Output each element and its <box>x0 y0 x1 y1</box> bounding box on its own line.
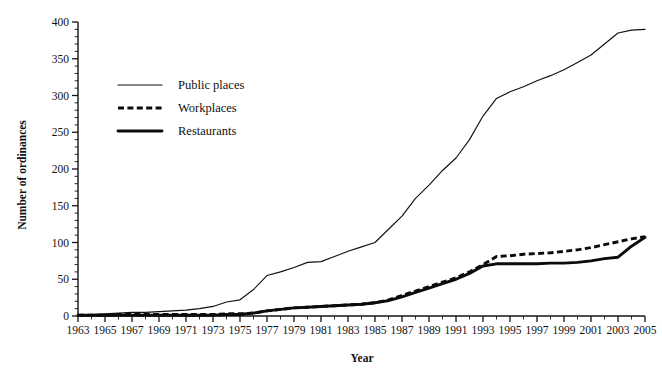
y-tick-label: 300 <box>52 90 70 102</box>
x-tick-label: 1983 <box>337 324 360 336</box>
y-tick-label: 0 <box>63 310 69 322</box>
x-tick-label: 1993 <box>472 324 495 336</box>
x-tick-label: 1967 <box>121 324 144 336</box>
y-axis-title: Number of ordinances <box>16 120 28 230</box>
x-tick-label: 2003 <box>607 324 630 336</box>
x-tick-label: 1981 <box>310 324 333 336</box>
x-tick-label: 1995 <box>499 324 522 336</box>
x-tick-label: 1989 <box>418 324 441 336</box>
x-tick-label: 1977 <box>256 324 279 336</box>
line-chart: 050100150200250300350400 196319651967196… <box>0 0 662 376</box>
x-tick-label: 1975 <box>229 324 252 336</box>
chart-legend: Public placesWorkplacesRestaurants <box>118 78 244 138</box>
x-tick-label: 1997 <box>526 324 549 336</box>
y-tick-label: 200 <box>52 163 70 175</box>
series-lines <box>78 29 645 315</box>
chart-container: 050100150200250300350400 196319651967196… <box>0 0 662 376</box>
y-tick-label: 150 <box>52 200 70 212</box>
x-tick-label: 1965 <box>94 324 117 336</box>
legend-label: Public places <box>178 78 244 92</box>
x-tick-label: 1999 <box>553 324 576 336</box>
x-tick-label: 1979 <box>283 324 306 336</box>
x-tick-label: 1971 <box>175 324 198 336</box>
x-tick-label: 1963 <box>67 324 90 336</box>
series-line-public-places <box>78 29 645 315</box>
y-tick-label: 400 <box>52 16 70 28</box>
y-tick-label: 50 <box>58 273 70 285</box>
y-tick-label: 350 <box>52 53 70 65</box>
x-axis-title: Year <box>351 352 374 364</box>
legend-label: Restaurants <box>178 124 236 138</box>
x-tick-label: 1991 <box>445 324 468 336</box>
series-line-restaurants <box>78 237 645 315</box>
y-tick-label: 250 <box>52 126 70 138</box>
y-tick-label: 100 <box>52 237 70 249</box>
x-tick-label: 1987 <box>391 324 414 336</box>
x-tick-label: 1973 <box>202 324 225 336</box>
x-tick-label: 1985 <box>364 324 387 336</box>
legend-label: Workplaces <box>178 101 237 115</box>
x-tick-label: 2001 <box>580 324 603 336</box>
x-tick-label: 2005 <box>634 324 657 336</box>
x-axis: 1963196519671969197119731975197719791981… <box>67 316 657 336</box>
x-tick-label: 1969 <box>148 324 171 336</box>
y-axis: 050100150200250300350400 <box>52 16 78 322</box>
